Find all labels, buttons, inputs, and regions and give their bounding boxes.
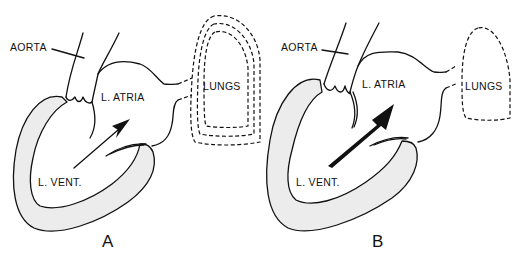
mitral-leaflet-anterior-b — [350, 92, 355, 128]
pulmonary-vein-b1 — [446, 66, 456, 72]
atrium-lower-a — [152, 100, 178, 146]
flow-arrow-b — [328, 104, 394, 168]
atrium-lower-b — [418, 88, 446, 142]
panel-label-a: A — [102, 232, 114, 251]
flow-arrow-shaft-a — [74, 130, 118, 168]
ventricle-wall-a — [13, 96, 154, 231]
ventricle-label-b: L. VENT. — [296, 176, 340, 188]
atrium-outline-a — [98, 62, 178, 85]
mitral-leaflet-anterior-a — [90, 102, 95, 138]
aorta-leader-a — [52, 49, 84, 58]
lung-outline-b — [462, 28, 510, 121]
lungs-label-a: LUNGS — [203, 80, 241, 92]
panel-a: AORTA L. ATRIA L. VENT. LUNGS A — [10, 16, 260, 251]
ventricle-label-a: L. VENT. — [38, 176, 82, 188]
lungs-label-b: LUNGS — [465, 80, 503, 92]
aorta-label-b: AORTA — [281, 41, 318, 53]
pulmonary-vein-b2 — [446, 83, 458, 88]
atria-label-a: L. ATRIA — [101, 91, 145, 103]
pulmonary-vein-a1 — [178, 78, 192, 84]
aortic-valve-a — [66, 97, 92, 103]
aorta-left-wall-a — [66, 33, 83, 97]
panel-label-b: B — [372, 232, 383, 251]
panel-b: AORTA L. ATRIA L. VENT. LUNGS B — [267, 23, 510, 251]
aorta-label-a: AORTA — [10, 41, 47, 53]
pulmonary-vein-a2 — [178, 95, 192, 100]
aortic-valve-b — [324, 84, 350, 94]
heart-diagram: AORTA L. ATRIA L. VENT. LUNGS A AORTA — [0, 0, 521, 258]
atria-label-b: L. ATRIA — [362, 78, 406, 90]
flow-arrow-head-a — [112, 119, 130, 138]
atrium-outline-b — [358, 52, 446, 73]
